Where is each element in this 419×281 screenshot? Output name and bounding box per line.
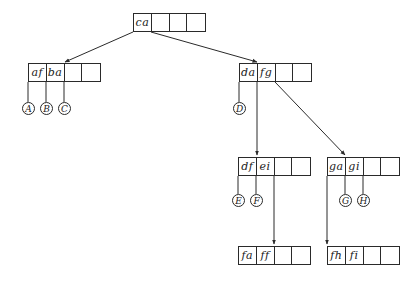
node-cell xyxy=(276,64,294,81)
node-n1: af ba xyxy=(28,63,101,82)
node-n3: df ei xyxy=(238,157,311,176)
leaf-H: H xyxy=(357,194,370,207)
node-cell xyxy=(65,64,83,81)
node-cell: fg xyxy=(258,64,276,81)
node-cell xyxy=(275,247,293,264)
node-cell xyxy=(292,158,310,175)
leaf-B: B xyxy=(40,102,53,115)
node-cell xyxy=(275,158,293,175)
b-tree-diagram: ca af ba da fg df ei ga gi fa ff xyxy=(0,0,419,281)
leaf-C: C xyxy=(58,102,71,115)
node-n4: ga gi xyxy=(327,157,400,176)
node-root: ca xyxy=(133,13,206,32)
node-cell: da xyxy=(240,64,258,81)
node-cell: ga xyxy=(328,158,346,175)
node-cell xyxy=(364,158,382,175)
leaf-G: G xyxy=(339,194,352,207)
node-cell: gi xyxy=(346,158,364,175)
node-cell xyxy=(292,247,310,264)
edges-layer xyxy=(0,0,419,281)
node-cell xyxy=(187,14,205,31)
leaf-D: D xyxy=(233,102,246,115)
node-cell xyxy=(152,14,170,31)
node-cell: ei xyxy=(257,158,275,175)
node-cell: ca xyxy=(134,14,152,31)
leaf-E: E xyxy=(232,194,245,207)
node-cell: df xyxy=(239,158,257,175)
node-cell: ba xyxy=(47,64,65,81)
node-n5: fa ff xyxy=(238,246,311,265)
edge-root-n1 xyxy=(65,32,133,62)
node-cell xyxy=(381,158,399,175)
node-cell xyxy=(82,64,100,81)
node-cell xyxy=(364,247,382,264)
node-cell: fi xyxy=(346,247,364,264)
node-cell xyxy=(170,14,188,31)
edge-root-n2 xyxy=(151,32,257,62)
node-n2: da fg xyxy=(239,63,312,82)
node-cell: af xyxy=(29,64,47,81)
node-cell: fh xyxy=(328,247,346,264)
leaf-F: F xyxy=(250,194,263,207)
edge-n2-n4 xyxy=(275,82,345,155)
node-n6: fh fi xyxy=(327,246,400,265)
leaf-A: A xyxy=(22,102,35,115)
node-cell: fa xyxy=(239,247,257,264)
node-cell: ff xyxy=(257,247,275,264)
node-cell xyxy=(293,64,311,81)
node-cell xyxy=(381,247,399,264)
